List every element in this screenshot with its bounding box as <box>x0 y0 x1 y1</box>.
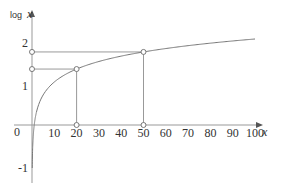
origin-label: 0 <box>14 125 20 139</box>
x-axis-label: x <box>261 125 268 139</box>
x-tick-label: 30 <box>93 126 105 140</box>
y-tick-label: 2 <box>22 36 28 50</box>
tick-labels: 102030405060708090100-112 <box>18 36 264 175</box>
point-marker <box>30 49 35 54</box>
markers <box>30 49 147 127</box>
log-chart: 102030405060708090100-112 0 x log x <box>0 0 283 186</box>
point-marker <box>141 49 146 54</box>
x-tick-label: 40 <box>115 126 127 140</box>
x-tick-label: 50 <box>138 126 150 140</box>
y-axis-label-prefix: log <box>10 10 22 20</box>
x-tick-label: 10 <box>48 126 60 140</box>
axes <box>14 10 263 183</box>
point-marker <box>74 67 79 72</box>
x-tick-label: 80 <box>204 126 216 140</box>
guide-lines <box>32 52 144 125</box>
x-tick-label: 20 <box>71 126 83 140</box>
point-marker <box>30 67 35 72</box>
y-tick-label: 1 <box>22 79 28 93</box>
x-tick-label: 60 <box>160 126 172 140</box>
x-tick-label: 70 <box>182 126 194 140</box>
x-tick-label: 90 <box>227 126 239 140</box>
y-tick-label: -1 <box>18 161 28 175</box>
y-axis-label-var: x <box>26 7 33 21</box>
